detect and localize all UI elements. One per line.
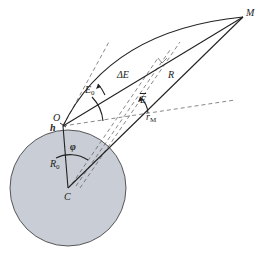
label-E0-sub: 0 xyxy=(91,89,95,97)
label-E0: E0 xyxy=(85,85,95,97)
label-rM-sub: M xyxy=(150,116,156,124)
diagram-canvas xyxy=(0,0,262,258)
label-phi: φ xyxy=(70,142,76,152)
label-rM: rM xyxy=(146,112,156,124)
label-M: M xyxy=(246,8,254,18)
range-R xyxy=(63,17,243,126)
label-h: h xyxy=(50,123,56,133)
label-Ebar: E xyxy=(140,95,146,105)
label-R0-sub: 0 xyxy=(56,163,60,171)
label-deltaE: ΔE xyxy=(117,70,129,80)
right-angle-marker xyxy=(158,58,167,63)
label-C: C xyxy=(64,192,71,202)
arrow-deltaE-icon xyxy=(96,84,101,89)
angle-arc-E0 xyxy=(92,97,103,121)
orbital-diagram: M O h C R0 φ E0 ΔE E R rM xyxy=(0,0,262,258)
label-R0: R0 xyxy=(50,159,60,171)
label-R: R xyxy=(168,70,174,80)
